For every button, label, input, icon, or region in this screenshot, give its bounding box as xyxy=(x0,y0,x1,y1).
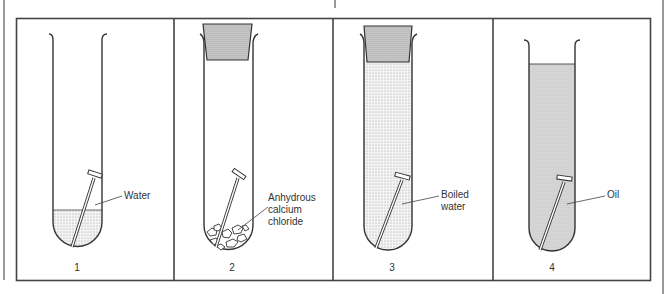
label-line: water xyxy=(441,201,469,213)
calcium-chloride-granules xyxy=(207,224,249,250)
label-line: calcium xyxy=(268,204,316,216)
panel-number-2: 2 xyxy=(222,262,242,273)
label-line: Anhydrous xyxy=(268,192,316,204)
leader-line xyxy=(95,196,122,205)
label-boiled-water: Boiled water xyxy=(441,189,469,213)
panel-1 xyxy=(49,34,122,247)
panel-number-3: 3 xyxy=(382,262,402,273)
stopper xyxy=(364,26,412,62)
panel-4 xyxy=(524,40,605,251)
label-line: Boiled xyxy=(441,189,469,201)
rusting-experiment-diagram xyxy=(0,0,667,294)
panel-2 xyxy=(200,24,268,250)
label-calcium-chloride: Anhydrous calcium chloride xyxy=(268,192,316,228)
panel-number-4: 4 xyxy=(542,262,562,273)
label-water: Water xyxy=(124,190,150,202)
boiled-water-fill xyxy=(364,60,412,250)
panel-number-1: 1 xyxy=(67,262,87,273)
panel-3 xyxy=(360,26,439,250)
label-line: chloride xyxy=(268,216,316,228)
label-oil: Oil xyxy=(607,189,619,201)
test-tube xyxy=(200,34,258,249)
stopper xyxy=(203,24,252,60)
oil-fill xyxy=(529,64,575,251)
